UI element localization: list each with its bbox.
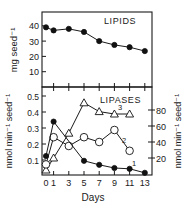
x-tick-label: 1 bbox=[51, 178, 56, 188]
top-panel-label: LIPIDS bbox=[104, 16, 136, 26]
y-tick-label: 20 bbox=[29, 52, 39, 62]
right-y-tick-label: 60 bbox=[156, 122, 166, 132]
lipase-3-series-point bbox=[65, 129, 73, 136]
lipids-series-point bbox=[112, 42, 117, 47]
lipase-3-series-point bbox=[95, 108, 103, 115]
lipids-series-point bbox=[81, 29, 86, 34]
right-y-tick-label: 40 bbox=[156, 138, 166, 148]
lipase-2-series-point bbox=[126, 147, 134, 155]
x-tick-label: 9 bbox=[112, 178, 117, 188]
lipase-3-series-point bbox=[80, 99, 88, 106]
lipids-series-point bbox=[51, 28, 56, 33]
lipase-1-series-point bbox=[112, 165, 117, 170]
x-tick-label: 7 bbox=[97, 178, 102, 188]
lipase-1-series-point bbox=[43, 153, 48, 158]
lipids-series-point bbox=[127, 45, 132, 50]
lipase-1-series-point bbox=[51, 119, 56, 124]
lipase-2-series-point bbox=[111, 126, 119, 134]
x-tick-label: 3 bbox=[66, 178, 71, 188]
x-axis-title: Days bbox=[82, 192, 105, 203]
series-number-label: 1 bbox=[132, 159, 136, 168]
bottom-right-y-axis-title: nmol min⁻¹ seed⁻¹ bbox=[173, 94, 183, 169]
left-y-tick-label: 0.2 bbox=[27, 140, 39, 150]
lipase-2-series-point bbox=[42, 161, 50, 169]
lipase-2-series-point bbox=[65, 142, 73, 150]
right-y-tick-label: 20 bbox=[156, 154, 166, 164]
x-tick-label: 13 bbox=[140, 178, 150, 188]
lipase-1-series-point bbox=[81, 158, 86, 163]
left-y-tick-label: 0.4 bbox=[27, 108, 39, 118]
chart-canvas: 1020304001357911130.10.20.30.40.52040608… bbox=[0, 0, 187, 212]
lipase-2-series-point bbox=[95, 138, 103, 146]
lipase-2-series-point bbox=[80, 133, 88, 141]
lipid-lipase-figure: 1020304001357911130.10.20.30.40.52040608… bbox=[0, 0, 187, 212]
lipids-series-point bbox=[97, 39, 102, 44]
lipase-1-series-point bbox=[142, 170, 147, 175]
lipids-series-point bbox=[142, 48, 147, 53]
lipase-2-series-line bbox=[46, 130, 130, 164]
lipase-1-series-point bbox=[97, 162, 102, 167]
y-tick-label: 30 bbox=[29, 37, 39, 47]
bottom-left-y-axis-title: nmol min⁻¹ seed⁻¹ bbox=[4, 94, 14, 169]
y-tick-label: 10 bbox=[29, 67, 39, 77]
bottom-panel-label: LIPASES bbox=[100, 95, 141, 105]
x-tick-label: 5 bbox=[81, 178, 86, 188]
lipids-series-point bbox=[66, 26, 71, 31]
left-y-tick-label: 0.5 bbox=[27, 92, 39, 102]
x-tick-label: 0 bbox=[43, 178, 48, 188]
right-y-tick-label: 80 bbox=[156, 106, 166, 116]
lipase-3-series-point bbox=[50, 154, 58, 161]
lipids-series-point bbox=[43, 25, 48, 30]
left-y-tick-label: 0.1 bbox=[27, 156, 39, 166]
left-y-tick-label: 0.3 bbox=[27, 124, 39, 134]
y-tick-label: 40 bbox=[29, 21, 39, 31]
series-number-label: 2 bbox=[122, 136, 126, 145]
x-tick-label: 11 bbox=[125, 178, 134, 188]
top-y-axis-title: mg seed⁻¹ bbox=[8, 28, 19, 73]
